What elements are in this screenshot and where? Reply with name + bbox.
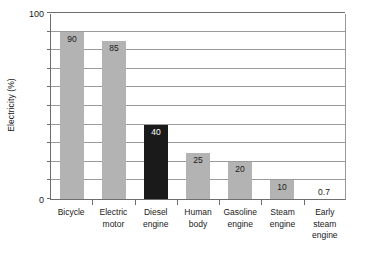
bar-value-label: 10	[277, 180, 286, 199]
x-axis-category-label: Bicycle	[50, 207, 92, 253]
x-axis-category-label: Dieselengine	[135, 207, 177, 253]
bar-value-label: 20	[235, 162, 244, 199]
bar: 85	[102, 41, 126, 199]
x-axis-label-line: Electric	[92, 207, 134, 219]
plot-area: 9085402520100.7	[50, 14, 346, 200]
x-axis-label-line: Steam	[261, 207, 303, 219]
x-axis-label-line: steam	[304, 219, 346, 231]
bar-slot: 40	[135, 14, 177, 199]
x-axis-category-label: Gasolineengine	[219, 207, 261, 253]
y-axis-title-text: Electricity (%)	[6, 78, 16, 131]
x-axis-category-label: Humanbody	[177, 207, 219, 253]
bar: 40	[144, 125, 168, 199]
y-axis-tick-labels: 0100	[18, 14, 44, 200]
bar: 0.7	[312, 185, 336, 199]
bar-value-label: 40	[151, 125, 160, 199]
x-axis-separator	[304, 200, 305, 205]
x-axis-category-label: Electricmotor	[92, 207, 134, 253]
x-axis-separator	[219, 200, 220, 205]
bar-value-label: 90	[67, 32, 76, 199]
x-axis-label-line: Diesel	[135, 207, 177, 219]
x-axis-category-label: Steamengine	[261, 207, 303, 253]
x-axis-label-line: engine	[135, 219, 177, 231]
bar-value-label: 85	[109, 41, 118, 199]
bar-chart: Electricity (%) 0100 9085402520100.7 Bic…	[0, 0, 372, 256]
bar-slot: 10	[261, 14, 303, 199]
x-axis-label-line: engine	[219, 219, 261, 231]
x-axis-separators	[50, 200, 346, 205]
bar-value-label: 0.7	[318, 185, 330, 197]
bar-slot: 0.7	[303, 14, 345, 199]
bar-slot: 85	[93, 14, 135, 199]
bar-series: 9085402520100.7	[51, 14, 345, 199]
bar: 90	[60, 32, 84, 199]
x-axis-label-line: body	[177, 219, 219, 231]
y-axis-tick-label: 100	[29, 10, 44, 19]
y-axis-tick-label: 0	[39, 196, 44, 205]
x-axis-label-line: Bicycle	[50, 207, 92, 219]
x-axis-label-line: engine	[304, 230, 346, 242]
bar: 10	[270, 180, 294, 199]
bar: 20	[228, 162, 252, 199]
bar-slot: 20	[219, 14, 261, 199]
x-axis-category-labels: BicycleElectricmotorDieselengineHumanbod…	[50, 207, 346, 253]
x-axis-category-label: Earlysteamengine	[304, 207, 346, 253]
bar-slot: 25	[177, 14, 219, 199]
x-axis-label-line: engine	[261, 219, 303, 231]
x-axis-separator	[177, 200, 178, 205]
bar-value-label: 25	[193, 153, 202, 200]
x-axis-separator	[261, 200, 262, 205]
x-axis-label-line: Gasoline	[219, 207, 261, 219]
y-axis-tick	[47, 12, 51, 13]
x-axis-separator	[135, 200, 136, 205]
bar-slot: 90	[51, 14, 93, 199]
gridline	[51, 12, 345, 13]
x-axis-label-line: Early	[304, 207, 346, 219]
bar: 25	[186, 153, 210, 200]
x-axis-label-line: motor	[92, 219, 134, 231]
x-axis-separator	[92, 200, 93, 205]
x-axis-label-line: Human	[177, 207, 219, 219]
